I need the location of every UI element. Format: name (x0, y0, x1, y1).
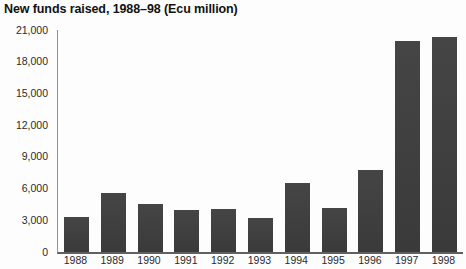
plot-area (57, 30, 463, 254)
x-axis-label: 1991 (167, 255, 204, 266)
x-axis-label: 1997 (388, 255, 425, 266)
bar-1998 (432, 37, 457, 252)
bar-1993 (248, 218, 273, 252)
bar-slot (389, 30, 426, 252)
y-tick-label: 12,000 (16, 120, 48, 131)
y-tick-label: 18,000 (16, 56, 48, 67)
y-tick-label: 21,000 (16, 25, 48, 36)
chart-title: New funds raised, 1988–98 (Ecu million) (4, 2, 238, 16)
bar-slot (426, 30, 463, 252)
bar-1994 (285, 183, 310, 252)
bar-1989 (101, 193, 126, 252)
x-axis-label: 1990 (131, 255, 168, 266)
x-axis-label: 1992 (204, 255, 241, 266)
bars-row (58, 30, 463, 252)
y-tick-label: 15,000 (16, 88, 48, 99)
bar-1997 (395, 41, 420, 252)
bar-slot (279, 30, 316, 252)
bar-slot (316, 30, 353, 252)
x-axis-label: 1998 (425, 255, 462, 266)
bar-chart: New funds raised, 1988–98 (Ecu million) … (0, 0, 466, 269)
bar-1991 (174, 210, 199, 252)
x-axis-label: 1995 (315, 255, 352, 266)
bar-slot (205, 30, 242, 252)
y-tick-label: 0 (42, 247, 48, 258)
bar-slot (353, 30, 390, 252)
bar-slot (132, 30, 169, 252)
x-axis: 1988198919901991199219931994199519961997… (57, 255, 462, 266)
y-axis: 03,0006,0009,00012,00015,00018,00021,000 (0, 30, 52, 252)
y-tick-label: 9,000 (22, 152, 48, 163)
bar-slot (168, 30, 205, 252)
bar-slot (58, 30, 95, 252)
x-axis-label: 1994 (278, 255, 315, 266)
y-tick-label: 6,000 (22, 183, 48, 194)
bar-1995 (322, 208, 347, 252)
bar-1996 (358, 170, 383, 252)
bar-1990 (138, 204, 163, 252)
bar-1992 (211, 209, 236, 252)
x-axis-label: 1989 (94, 255, 131, 266)
bar-1988 (64, 217, 89, 252)
y-tick-label: 3,000 (22, 215, 48, 226)
x-axis-label: 1993 (241, 255, 278, 266)
bar-slot (95, 30, 132, 252)
bar-slot (242, 30, 279, 252)
x-axis-label: 1988 (57, 255, 94, 266)
x-axis-label: 1996 (352, 255, 389, 266)
